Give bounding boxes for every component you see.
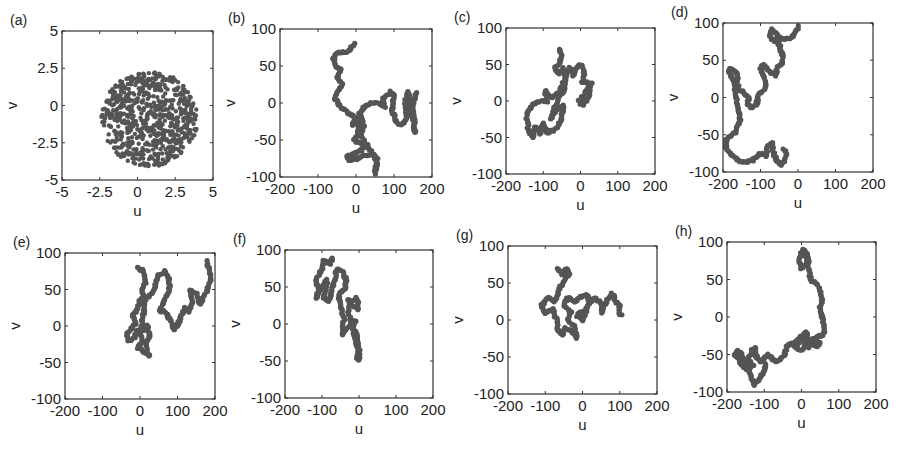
scatter-point	[112, 90, 116, 94]
y-tick-label: -100	[251, 389, 281, 406]
scatter-point	[166, 107, 170, 111]
y-tick-label: 100	[694, 14, 719, 31]
scatter-point	[179, 110, 183, 114]
y-tick-label: 50	[485, 56, 502, 73]
scatter-point	[187, 98, 191, 102]
x-tick-label: 200	[860, 175, 885, 192]
scatter-point	[171, 80, 175, 84]
scatter-point	[178, 99, 182, 103]
scatter-point	[115, 136, 119, 140]
x-tick-label: 5	[209, 183, 217, 200]
scatter-point	[164, 151, 168, 155]
scatter-point	[151, 94, 155, 98]
panel-g: -200-1000100200100500-50-100uv(g)	[449, 227, 670, 433]
scatter-point	[163, 160, 167, 164]
scatter-point	[120, 97, 124, 101]
y-axis-label: v	[449, 316, 466, 324]
scatter-point	[112, 102, 116, 106]
plot-data	[523, 47, 594, 140]
figure-canvas: -5-2.502.5552.50-2.5-5uv(a)-200-10001002…	[0, 0, 903, 458]
scatter-point	[133, 83, 137, 87]
scatter-point	[158, 121, 162, 125]
x-axis-label: u	[355, 420, 363, 437]
trajectory-point	[763, 361, 768, 366]
y-axis-label: v	[447, 97, 464, 105]
scatter-point	[185, 135, 189, 139]
scatter-point	[127, 145, 131, 149]
scatter-point	[133, 132, 137, 136]
scatter-point	[151, 147, 155, 151]
y-tick-label: 100	[477, 19, 502, 36]
x-tick-label: -100	[530, 397, 560, 414]
x-tick-label: 100	[823, 175, 848, 192]
y-tick-label: 0	[715, 308, 723, 325]
y-tick-label: 50	[702, 51, 719, 68]
scatter-point	[129, 128, 133, 132]
scatter-point	[163, 85, 167, 89]
scatter-point	[186, 102, 190, 106]
scatter-point	[154, 153, 158, 157]
scatter-point	[147, 71, 151, 75]
scatter-point	[145, 117, 149, 121]
scatter-point	[169, 144, 173, 148]
scatter-point	[138, 116, 142, 120]
scatter-point	[173, 93, 177, 97]
scatter-point	[138, 163, 142, 167]
trajectory-point	[414, 90, 419, 95]
scatter-point	[102, 123, 106, 127]
y-axis-label: v	[6, 322, 23, 330]
x-axis-label: u	[352, 199, 360, 216]
scatter-point	[147, 157, 151, 161]
y-tick-label: 50	[44, 281, 61, 298]
panel-d: -200-1000100200100500-50-100uv(d)	[664, 4, 886, 211]
scatter-point	[157, 107, 161, 111]
x-tick-label: 0	[352, 180, 360, 197]
y-tick-label: -100	[474, 385, 504, 402]
y-tick-label: 100	[251, 20, 276, 37]
scatter-point	[178, 92, 182, 96]
scatter-point	[118, 133, 122, 137]
scatter-point	[159, 138, 163, 142]
scatter-point	[145, 102, 149, 106]
scatter-point	[142, 133, 146, 137]
panel-label: (e)	[13, 234, 30, 250]
y-tick-label: 5	[50, 22, 58, 39]
y-tick-label: 0	[711, 89, 719, 106]
scatter-point	[119, 105, 123, 109]
y-tick-label: -50	[480, 129, 502, 146]
y-tick-label: -100	[31, 390, 61, 407]
scatter-point	[157, 113, 161, 117]
scatter-point	[185, 126, 189, 130]
scatter-point	[152, 104, 156, 108]
x-axis-label: u	[576, 196, 584, 213]
x-tick-label: -100	[307, 401, 337, 418]
panel-label: (b)	[228, 10, 245, 26]
scatter-point	[165, 113, 169, 117]
scatter-point	[146, 97, 150, 101]
scatter-point	[130, 135, 134, 139]
panel-h: -200-1000100200100500-50-100uv(h)	[668, 223, 889, 431]
y-tick-label: 0	[496, 311, 504, 328]
scatter-point	[171, 149, 175, 153]
scatter-point	[160, 100, 164, 104]
scatter-point	[194, 107, 198, 111]
panel-a: -5-2.502.5552.50-2.5-5uv(a)	[3, 12, 217, 219]
y-tick-label: -5	[45, 171, 58, 188]
scatter-point	[156, 131, 160, 135]
trajectory-point	[586, 90, 591, 95]
x-tick-label: 100	[826, 395, 851, 412]
scatter-point	[115, 117, 119, 121]
scatter-point	[128, 151, 132, 155]
x-axis-label: u	[133, 202, 141, 219]
scatter-point	[137, 77, 141, 81]
scatter-point	[132, 156, 136, 160]
scatter-point	[161, 144, 165, 148]
scatter-point	[181, 145, 185, 149]
y-tick-label: -100	[472, 165, 502, 182]
y-tick-label: -2.5	[32, 134, 58, 151]
scatter-point	[163, 119, 167, 123]
plot-data	[99, 70, 198, 168]
panel-e: -200-1000100200100500-50-100uv(e)	[6, 234, 228, 438]
y-tick-label: 0	[268, 94, 276, 111]
scatter-point	[126, 136, 130, 140]
